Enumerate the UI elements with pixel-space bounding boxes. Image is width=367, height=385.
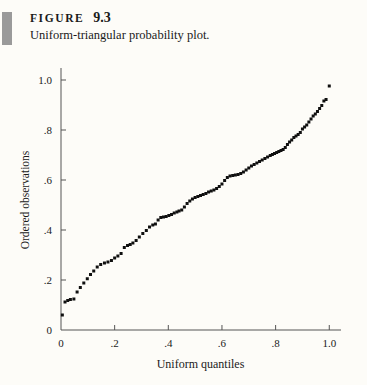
- data-point: [226, 176, 229, 179]
- data-point: [145, 229, 148, 232]
- data-point: [204, 192, 207, 195]
- x-axis-title: Uniform quantiles: [157, 357, 245, 371]
- data-point: [320, 104, 323, 107]
- data-point: [76, 291, 79, 294]
- data-point: [96, 266, 99, 269]
- data-point: [202, 193, 205, 196]
- data-point: [196, 195, 199, 198]
- data-point: [61, 314, 64, 317]
- data-point: [106, 261, 109, 264]
- x-tick-label: .8: [271, 337, 280, 349]
- data-point: [151, 224, 154, 227]
- data-point: [199, 194, 202, 197]
- data-point: [79, 286, 82, 289]
- data-point: [328, 85, 331, 88]
- data-point: [154, 223, 157, 226]
- data-point: [157, 219, 160, 222]
- data-point: [82, 282, 85, 285]
- data-point: [242, 171, 245, 174]
- data-point: [266, 156, 269, 159]
- data-point: [255, 162, 258, 165]
- data-point: [116, 255, 119, 258]
- y-tick-label: .4: [44, 224, 53, 236]
- data-point: [110, 259, 113, 262]
- y-tick-label: .2: [44, 274, 52, 286]
- data-point: [284, 146, 287, 149]
- data-point: [165, 215, 168, 218]
- data-point: [72, 298, 75, 301]
- data-point: [237, 173, 240, 176]
- data-point: [148, 226, 151, 229]
- data-point: [64, 301, 67, 304]
- data-point: [138, 236, 141, 239]
- y-tick-label: 1.0: [38, 74, 52, 86]
- data-point: [126, 244, 129, 247]
- data-point: [129, 243, 132, 246]
- data-point: [207, 191, 210, 194]
- data-point: [261, 159, 264, 162]
- x-tick-label: 0: [58, 337, 64, 349]
- data-point: [89, 273, 92, 276]
- data-point: [159, 216, 162, 219]
- data-point: [253, 163, 256, 166]
- data-point: [247, 167, 250, 170]
- data-point: [86, 277, 89, 280]
- data-point: [99, 263, 102, 266]
- data-point: [318, 107, 321, 110]
- data-point: [316, 110, 319, 113]
- data-point: [307, 121, 310, 124]
- data-point: [229, 175, 232, 178]
- y-tick-label: .8: [44, 124, 53, 136]
- data-point: [103, 262, 106, 265]
- plot-canvas: 0.2.4.6.81.00.2.4.6.81.0Uniform quantile…: [0, 0, 367, 385]
- y-tick-label: 0: [47, 324, 53, 336]
- data-point: [141, 232, 144, 235]
- data-point: [210, 190, 213, 193]
- data-point: [250, 165, 253, 168]
- data-point: [234, 174, 237, 177]
- data-point: [113, 257, 116, 260]
- data-point: [188, 200, 191, 203]
- figure-root: FIGURE9.3 Uniform-triangular probability…: [0, 0, 367, 385]
- data-point: [223, 179, 226, 182]
- data-point: [325, 98, 328, 101]
- x-tick-label: 1.0: [322, 337, 336, 349]
- data-point: [186, 202, 189, 205]
- data-point: [131, 242, 134, 245]
- data-point: [191, 198, 194, 201]
- data-point: [92, 270, 95, 273]
- data-point: [245, 169, 248, 172]
- data-series: [61, 85, 331, 317]
- data-point: [239, 172, 242, 175]
- data-point: [310, 118, 313, 121]
- data-point: [69, 298, 72, 301]
- y-tick-label: .6: [44, 174, 53, 186]
- data-point: [167, 214, 170, 217]
- data-point: [66, 299, 69, 302]
- data-point: [178, 210, 181, 213]
- data-point: [170, 213, 173, 216]
- data-point: [180, 209, 183, 212]
- data-point: [215, 187, 218, 190]
- data-point: [218, 185, 221, 188]
- y-axis-title: Ordered observations: [19, 150, 31, 249]
- data-point: [263, 157, 266, 160]
- data-point: [299, 131, 302, 134]
- data-point: [162, 216, 165, 219]
- x-tick-label: .4: [164, 337, 173, 349]
- data-point: [212, 189, 215, 192]
- data-point: [135, 239, 138, 242]
- data-point: [123, 246, 126, 249]
- data-point: [305, 124, 308, 127]
- x-tick-label: .6: [218, 337, 227, 349]
- scatter-plot: 0.2.4.6.81.00.2.4.6.81.0Uniform quantile…: [0, 0, 367, 385]
- data-point: [258, 160, 261, 163]
- data-point: [220, 183, 223, 186]
- x-tick-label: .2: [111, 337, 119, 349]
- data-point: [173, 212, 176, 215]
- data-point: [194, 196, 197, 199]
- data-point: [183, 206, 186, 209]
- data-point: [120, 252, 123, 255]
- data-point: [231, 174, 234, 177]
